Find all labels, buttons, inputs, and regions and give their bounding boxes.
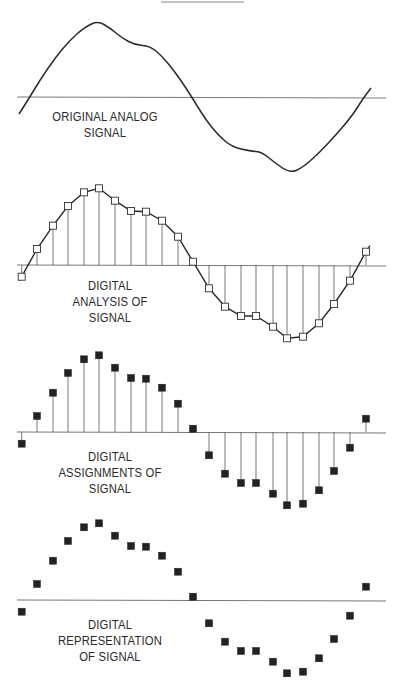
open-sample-square <box>270 323 277 330</box>
open-sample-square <box>175 233 182 240</box>
open-sample-square <box>300 333 307 340</box>
open-sample-square <box>190 258 197 265</box>
label-line: DIGITAL <box>52 617 169 633</box>
label-line: ANALYSIS OF <box>61 294 160 310</box>
open-sample-square <box>253 313 260 320</box>
filled-sample-square <box>253 648 260 655</box>
open-sample-square <box>331 301 338 308</box>
axis-line <box>17 432 386 433</box>
filled-sample-square <box>300 500 307 507</box>
label-original-analog: ORIGINAL ANALOG SIGNAL <box>47 109 164 141</box>
filled-sample-square <box>363 415 370 422</box>
filled-sample-square <box>238 648 245 655</box>
label-line: SIGNAL <box>47 125 164 141</box>
label-digital-assignments: DIGITAL ASSIGNMENTS OF SIGNAL <box>52 449 169 497</box>
open-sample-square <box>34 246 41 253</box>
label-line: REPRESENTATION <box>52 633 169 649</box>
filled-sample-square <box>175 400 182 407</box>
open-sample-square <box>65 203 72 210</box>
filled-sample-square <box>65 538 72 545</box>
filled-sample-square <box>128 375 135 382</box>
filled-sample-square <box>159 552 166 559</box>
filled-sample-square <box>50 557 57 564</box>
filled-sample-square <box>128 543 135 550</box>
filled-sample-square <box>316 487 323 494</box>
filled-sample-square <box>331 636 338 643</box>
filled-sample-square <box>81 356 88 363</box>
filled-sample-square <box>206 452 213 459</box>
open-sample-square <box>347 277 354 284</box>
axis-line <box>17 600 386 601</box>
label-line: DIGITAL <box>61 278 160 294</box>
label-digital-representation: DIGITAL REPRESENTATION OF SIGNAL <box>52 617 169 665</box>
filled-sample-square <box>238 480 245 487</box>
label-line: SIGNAL <box>52 481 169 497</box>
open-sample-square <box>18 273 25 280</box>
filled-sample-square <box>175 568 182 575</box>
open-sample-square <box>316 320 323 327</box>
label-line: ORIGINAL ANALOG <box>47 109 164 125</box>
filled-sample-square <box>143 375 150 382</box>
open-sample-square <box>222 303 229 310</box>
axis-line <box>17 97 386 98</box>
filled-sample-square <box>18 608 25 615</box>
open-sample-square <box>96 185 103 192</box>
open-sample-square <box>206 285 213 292</box>
filled-sample-square <box>284 670 291 677</box>
filled-sample-square <box>112 364 119 371</box>
open-sample-square <box>112 197 119 204</box>
filled-sample-square <box>270 490 277 497</box>
open-sample-square <box>284 335 291 342</box>
open-sample-square <box>143 208 150 215</box>
axis-line <box>17 265 386 266</box>
signal-sampling-diagram: ORIGINAL ANALOG SIGNAL DIGITAL ANALYSIS … <box>0 0 398 681</box>
filled-sample-square <box>316 655 323 662</box>
filled-sample-square <box>222 470 229 477</box>
filled-sample-square <box>206 620 213 627</box>
open-sample-square <box>50 222 57 229</box>
label-line: OF SIGNAL <box>52 649 169 665</box>
filled-sample-square <box>50 389 57 396</box>
filled-sample-square <box>347 444 354 451</box>
filled-sample-square <box>65 370 72 377</box>
filled-sample-square <box>270 658 277 665</box>
label-line: SIGNAL <box>61 310 160 326</box>
filled-sample-square <box>112 532 119 539</box>
open-sample-square <box>159 217 166 224</box>
filled-sample-square <box>284 502 291 509</box>
filled-sample-square <box>190 593 197 600</box>
diagram-canvas <box>0 0 398 681</box>
filled-sample-square <box>222 638 229 645</box>
filled-sample-square <box>96 352 103 359</box>
filled-sample-square <box>300 668 307 675</box>
label-line: ASSIGNMENTS OF <box>52 465 169 481</box>
filled-sample-square <box>81 524 88 531</box>
filled-sample-square <box>34 413 41 420</box>
label-digital-analysis: DIGITAL ANALYSIS OF SIGNAL <box>61 278 160 326</box>
filled-sample-square <box>34 581 41 588</box>
filled-sample-square <box>159 384 166 391</box>
filled-sample-square <box>331 468 338 475</box>
filled-sample-square <box>143 543 150 550</box>
filled-sample-square <box>363 583 370 590</box>
open-sample-square <box>128 208 135 215</box>
filled-sample-square <box>190 425 197 432</box>
filled-sample-square <box>253 480 260 487</box>
filled-sample-square <box>18 440 25 447</box>
label-line: DIGITAL <box>52 449 169 465</box>
open-sample-square <box>363 248 370 255</box>
filled-sample-square <box>347 612 354 619</box>
filled-sample-square <box>96 520 103 527</box>
open-sample-square <box>238 313 245 320</box>
open-sample-square <box>81 189 88 196</box>
